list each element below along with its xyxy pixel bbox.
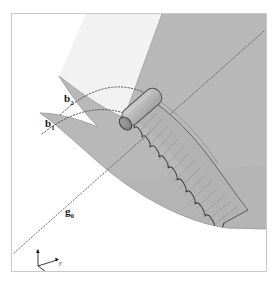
axis-x-line [38,266,54,272]
axis-y-line [38,260,57,266]
figure-frame: b2 b1 g0 z y x [11,13,267,272]
figure-root: b2 b1 g0 z y x [0,0,275,287]
figure-caption [11,276,275,287]
geodesic-surface-diagram [12,14,266,271]
label-b1: b1 [45,118,55,132]
label-b2: b2 [64,93,74,107]
axis-z-label: z [36,248,38,254]
axis-y-label: y [59,260,62,266]
label-g: g0 [65,206,74,220]
